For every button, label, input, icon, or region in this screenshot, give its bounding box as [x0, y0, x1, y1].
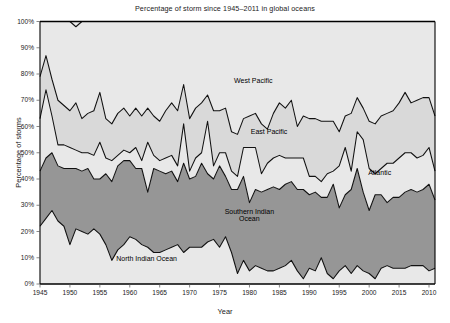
y-tick-label: 10% — [4, 254, 34, 261]
x-tick-label: 1955 — [85, 289, 115, 296]
x-tick-label: 1965 — [145, 289, 175, 296]
x-tick-label: 1980 — [234, 289, 264, 296]
y-tick-label: 60% — [4, 123, 34, 130]
x-tick-label: 1985 — [264, 289, 294, 296]
x-tick-label: 1970 — [175, 289, 205, 296]
y-tick-label: 0% — [4, 280, 34, 287]
x-tick-label: 1960 — [115, 289, 145, 296]
series-label-southern-indian-ocean: Southern IndianOcean — [204, 208, 294, 222]
x-tick-label: 1990 — [294, 289, 324, 296]
y-tick-label: 80% — [4, 70, 34, 77]
y-tick-label: 100% — [4, 18, 34, 25]
x-tick-label: 1945 — [25, 289, 55, 296]
series-areas — [40, 22, 435, 285]
y-tick-label: 50% — [4, 149, 34, 156]
y-tick-label: 40% — [4, 175, 34, 182]
figure-caption — [2, 313, 122, 321]
x-tick-label: 2015 — [384, 289, 414, 296]
x-tick-label: 2010 — [414, 289, 444, 296]
y-tick-label: 20% — [4, 228, 34, 235]
y-tick-label: 90% — [4, 44, 34, 51]
y-tick-label: 30% — [4, 201, 34, 208]
y-tick-label: 70% — [4, 96, 34, 103]
stacked-area-chart — [0, 0, 450, 323]
x-tick-label: 2000 — [354, 289, 384, 296]
series-label-north-indian-ocean: North Indian Ocean — [102, 255, 192, 262]
figure-container: Percentage of storm since 1945–2011 in g… — [0, 0, 450, 323]
series-label-east-pacific: East Pacific — [224, 128, 314, 135]
x-tick-label: 1995 — [324, 289, 354, 296]
x-tick-label: 1950 — [55, 289, 85, 296]
x-tick-label: 1975 — [205, 289, 235, 296]
series-label-west-pacific: West Pacific — [208, 77, 298, 84]
series-label-atlantic: Atlantic — [335, 169, 425, 176]
